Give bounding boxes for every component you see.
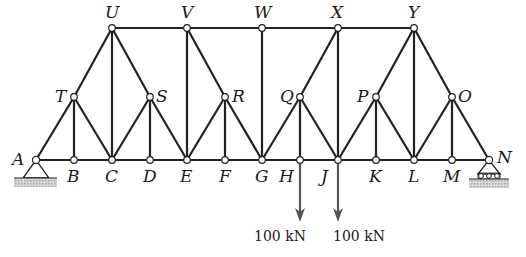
label-H: H [278, 166, 295, 186]
member-Q-G [262, 97, 300, 160]
joint-S [147, 94, 154, 101]
truss-members [36, 28, 489, 160]
joint-R [222, 94, 229, 101]
member-P-Y [376, 28, 414, 97]
label-R: R [231, 86, 245, 106]
label-J: J [318, 166, 329, 186]
truss-diagram: 100 kN 100 kN A B C D E F G H [0, 0, 526, 257]
label-F: F [218, 166, 232, 186]
load-J [333, 162, 343, 222]
label-V: V [181, 2, 195, 22]
label-T: T [55, 86, 68, 106]
joint-J [335, 157, 342, 164]
label-O: O [458, 86, 472, 106]
joint-X [335, 25, 342, 32]
joint-A [32, 156, 39, 163]
label-N: N [496, 147, 513, 167]
joint-Q [297, 94, 304, 101]
member-R-G [225, 97, 262, 160]
joint-W [259, 25, 266, 32]
joint-C [109, 157, 116, 164]
label-U: U [105, 2, 120, 22]
label-X: X [329, 2, 344, 22]
joint-G [259, 157, 266, 164]
load-label-J: 100 kN [333, 228, 385, 244]
joint-L [411, 157, 418, 164]
joint-M [449, 157, 456, 164]
joint-Y [411, 25, 418, 32]
member-S-E [150, 97, 187, 160]
member-O-N [452, 97, 489, 160]
member-Q-J [300, 97, 338, 160]
label-L: L [407, 166, 419, 186]
joint-O [449, 94, 456, 101]
member-S-C [112, 97, 150, 160]
member-V-R [187, 28, 225, 97]
load-H [295, 162, 305, 222]
member-Y-O [414, 28, 452, 97]
label-D: D [142, 166, 157, 186]
joint-F [222, 157, 229, 164]
joint-V [184, 25, 191, 32]
load-label-H: 100 kN [254, 228, 306, 244]
joint-D [147, 157, 154, 164]
joint-N [485, 156, 492, 163]
label-W: W [254, 2, 273, 22]
member-T-U [74, 28, 112, 97]
member-T-C [74, 97, 112, 160]
joint-H [297, 157, 304, 164]
ground-hatch-left [14, 178, 57, 187]
joint-P [373, 94, 380, 101]
member-R-E [187, 97, 225, 160]
joint-K [373, 157, 380, 164]
joint-T [71, 94, 78, 101]
member-X-Q [300, 28, 338, 97]
label-A: A [10, 149, 24, 169]
label-Y: Y [408, 2, 421, 22]
member-P-L [376, 97, 414, 160]
member-U-S [112, 28, 150, 97]
label-S: S [156, 86, 168, 106]
joint-U [109, 25, 116, 32]
joint-E [184, 157, 191, 164]
member-J-P [338, 97, 376, 160]
label-B: B [66, 166, 80, 186]
label-E: E [179, 166, 193, 186]
joint-B [71, 157, 78, 164]
label-G: G [255, 166, 269, 186]
label-Q: Q [280, 86, 294, 106]
member-A-T [36, 97, 74, 160]
label-C: C [105, 166, 118, 186]
label-P: P [356, 86, 369, 106]
label-K: K [368, 166, 383, 186]
ground-hatch-right [469, 179, 509, 188]
label-M: M [442, 166, 461, 186]
member-O-L [414, 97, 452, 160]
